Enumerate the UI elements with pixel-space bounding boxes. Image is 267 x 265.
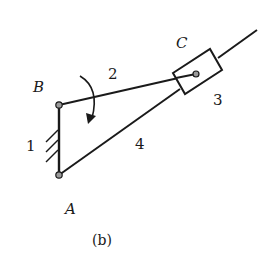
joint-b xyxy=(56,102,62,108)
label-link-1: 1 xyxy=(26,137,36,155)
label-joint-c: C xyxy=(176,34,188,52)
joint-a xyxy=(56,172,62,178)
label-link-2: 2 xyxy=(108,65,118,83)
label-joint-a: A xyxy=(63,200,76,218)
joint-c xyxy=(193,71,199,77)
label-joint-b: B xyxy=(32,78,44,96)
label-link-3: 3 xyxy=(213,91,223,109)
figure-caption: (b) xyxy=(92,232,112,248)
link-4-extension xyxy=(218,30,257,58)
mechanism-diagram: B C A 1 2 3 4 (b) xyxy=(0,0,267,265)
rotation-arrowhead-icon xyxy=(86,113,96,124)
ground-hatch xyxy=(46,130,58,162)
label-link-4: 4 xyxy=(135,135,145,153)
